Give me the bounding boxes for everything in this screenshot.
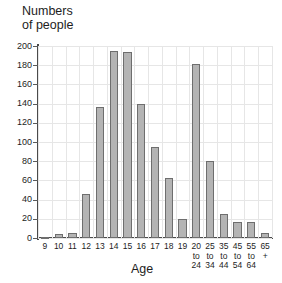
gridline-horizontal [38,123,272,124]
x-tick-label: 25 to 34 [203,242,217,271]
x-tick-label: 18 [162,242,176,252]
y-tick-label: 160 [6,80,32,89]
y-tick-label: 140 [6,99,32,108]
bar [151,147,159,238]
x-tick-label: 17 [148,242,162,252]
bar [178,219,186,238]
y-tick-label: 20 [6,214,32,223]
gridline-vertical [66,46,67,238]
bar [247,222,255,238]
bar-chart: Numbers of people 0204060801001201401601… [0,0,282,283]
gridline-vertical [121,46,122,238]
gridline-vertical [189,46,190,238]
y-tick-mark [33,180,38,181]
y-tick-mark [33,142,38,143]
gridline-vertical [217,46,218,238]
gridline-vertical [203,46,204,238]
bar [137,104,145,238]
gridline-vertical [244,46,245,238]
x-tick-label: 20 to 24 [189,242,203,271]
gridline-vertical [176,46,177,238]
y-tick-label: 60 [6,176,32,185]
gridline-vertical [38,46,39,238]
gridline-vertical [258,46,259,238]
gridline-vertical [79,46,80,238]
gridline-horizontal [38,65,272,66]
gridline-vertical [231,46,232,238]
bar [68,233,76,238]
x-tick-label: 45 to 54 [231,242,245,271]
y-tick-mark [33,219,38,220]
bar [165,178,173,238]
gridline-vertical [93,46,94,238]
y-tick-label: 80 [6,157,32,166]
x-tick-label: 10 [52,242,66,252]
plot-area [38,46,272,238]
y-tick-mark [33,104,38,105]
y-axis-title: Numbers of people [22,4,142,32]
bar [220,214,228,238]
x-tick-label: 11 [66,242,80,252]
x-tick-label: 16 [134,242,148,252]
gridline-vertical [134,46,135,238]
bar [82,194,90,238]
bar [123,52,131,238]
y-tick-mark [33,238,38,239]
bar [96,107,104,238]
gridline-vertical [148,46,149,238]
x-tick-label: 12 [79,242,93,252]
y-tick-mark [33,123,38,124]
bar [55,234,63,238]
bar [233,222,241,238]
x-tick-label: 55 to 64 [244,242,258,271]
y-tick-label: 0 [6,234,32,243]
y-tick-mark [33,84,38,85]
y-tick-label: 100 [6,138,32,147]
y-tick-mark [33,200,38,201]
y-tick-mark [33,46,38,47]
gridline-vertical [272,46,273,238]
gridline-vertical [162,46,163,238]
gridline-horizontal [38,84,272,85]
x-axis-title: Age [112,262,172,276]
gridline-horizontal [38,104,272,105]
y-axis-tick-labels: 020406080100120140160180200 [0,0,32,283]
gridline-horizontal [38,46,272,47]
gridline-horizontal [38,142,272,143]
bar [192,64,200,238]
bar [261,233,269,238]
x-tick-label: 13 [93,242,107,252]
gridline-vertical [52,46,53,238]
x-tick-label: 9 [38,242,52,252]
x-tick-label: 35 to 44 [217,242,231,271]
y-tick-mark [33,161,38,162]
gridline-horizontal [38,238,272,239]
gridline-vertical [107,46,108,238]
y-tick-label: 120 [6,118,32,127]
x-tick-label: 65 + [258,242,272,261]
y-tick-mark [33,65,38,66]
x-tick-label: 15 [121,242,135,252]
x-tick-label: 14 [107,242,121,252]
y-tick-label: 180 [6,61,32,70]
bar [110,51,118,238]
bar [41,237,49,239]
bar [206,161,214,238]
y-tick-label: 200 [6,42,32,51]
x-tick-label: 19 [176,242,190,252]
y-tick-label: 40 [6,195,32,204]
